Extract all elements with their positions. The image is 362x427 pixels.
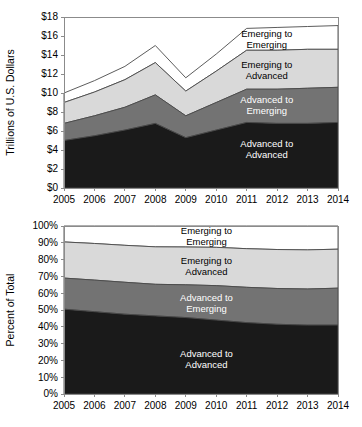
y-tick-label: 20% xyxy=(38,355,58,366)
area-chart-top: $0$2$4$6$8$10$12$14$16$18200520062007200… xyxy=(0,0,362,213)
x-tick-label: 2005 xyxy=(53,194,76,205)
series-annotation: Emerging toEmerging xyxy=(181,225,232,247)
x-tick-label: 2006 xyxy=(83,194,106,205)
x-tick-label: 2006 xyxy=(83,400,106,411)
series-annotation: Advanced toEmerging xyxy=(180,292,233,314)
series-annotation: Emerging toEmerging xyxy=(241,28,292,50)
y-axis-title: Trillions of U.S. Dollars xyxy=(4,49,16,155)
series-annotation-line: Advanced xyxy=(185,266,227,277)
x-tick-label: 2009 xyxy=(175,400,198,411)
series-annotation: Emerging toAdvanced xyxy=(241,59,292,81)
x-tick-label: 2007 xyxy=(114,194,137,205)
y-tick-label: 80% xyxy=(38,254,58,265)
y-tick-label: 30% xyxy=(38,338,58,349)
x-tick-label: 2013 xyxy=(296,400,319,411)
y-tick-label: $8 xyxy=(47,106,59,117)
x-tick-label: 2009 xyxy=(175,194,198,205)
series-annotation-line: Emerging to xyxy=(241,59,292,70)
series-annotation-line: Emerging xyxy=(246,39,287,50)
series-annotation-line: Advanced to xyxy=(180,292,233,303)
x-tick-label: 2005 xyxy=(53,400,76,411)
y-tick-label: $12 xyxy=(41,68,58,79)
x-tick-label: 2014 xyxy=(327,194,350,205)
series-annotation-line: Advanced xyxy=(246,70,288,81)
y-tick-label: 90% xyxy=(38,237,58,248)
series-annotation: Advanced toAdvanced xyxy=(180,348,233,370)
y-tick-label: $6 xyxy=(47,125,59,136)
x-tick-label: 2007 xyxy=(114,400,137,411)
x-tick-label: 2008 xyxy=(144,400,167,411)
series-annotation-line: Emerging to xyxy=(181,255,232,266)
y-tick-label: $10 xyxy=(41,87,58,98)
y-tick-label: 0% xyxy=(44,388,59,399)
series-annotation-line: Advanced to xyxy=(180,348,233,359)
y-tick-label: 40% xyxy=(38,321,58,332)
series-annotation-line: Advanced to xyxy=(240,94,293,105)
x-tick-label: 2010 xyxy=(205,194,228,205)
series-annotation-line: Emerging to xyxy=(241,28,292,39)
series-annotation-line: Advanced xyxy=(246,149,288,160)
series-annotation-line: Advanced to xyxy=(240,138,293,149)
series-annotation-line: Advanced xyxy=(185,359,227,370)
series-annotation-line: Emerging to xyxy=(181,225,232,236)
y-tick-label: 10% xyxy=(38,372,58,383)
x-tick-label: 2011 xyxy=(236,400,258,411)
y-axis-title: Percent of Total xyxy=(4,274,16,347)
chart-panel-top: $0$2$4$6$8$10$12$14$16$18200520062007200… xyxy=(0,0,362,213)
x-tick-label: 2011 xyxy=(236,194,258,205)
series-annotation-line: Emerging xyxy=(246,105,287,116)
y-tick-label: 100% xyxy=(32,220,58,231)
series-annotation: Emerging toAdvanced xyxy=(181,255,232,277)
y-tick-label: $4 xyxy=(47,144,59,155)
series-annotation-line: Emerging xyxy=(186,236,227,247)
series-annotation: Advanced toEmerging xyxy=(240,94,293,116)
x-tick-label: 2014 xyxy=(327,400,350,411)
x-tick-label: 2012 xyxy=(266,194,289,205)
y-tick-label: $2 xyxy=(47,163,59,174)
y-tick-label: $14 xyxy=(41,49,58,60)
series-annotation-line: Emerging xyxy=(186,303,227,314)
y-tick-label: $18 xyxy=(41,11,58,22)
y-tick-label: 50% xyxy=(38,304,58,315)
series-annotation: Advanced toAdvanced xyxy=(240,138,293,160)
chart-panel-bottom: 0%10%20%30%40%50%60%70%80%90%100%2005200… xyxy=(0,213,362,427)
y-tick-label: 60% xyxy=(38,288,58,299)
x-tick-label: 2013 xyxy=(296,194,319,205)
y-tick-label: $0 xyxy=(47,182,59,193)
y-tick-label: 70% xyxy=(38,271,58,282)
x-tick-label: 2012 xyxy=(266,400,289,411)
area-chart-bottom: 0%10%20%30%40%50%60%70%80%90%100%2005200… xyxy=(0,213,362,427)
x-tick-label: 2010 xyxy=(205,400,228,411)
y-tick-label: $16 xyxy=(41,30,58,41)
x-tick-label: 2008 xyxy=(144,194,167,205)
